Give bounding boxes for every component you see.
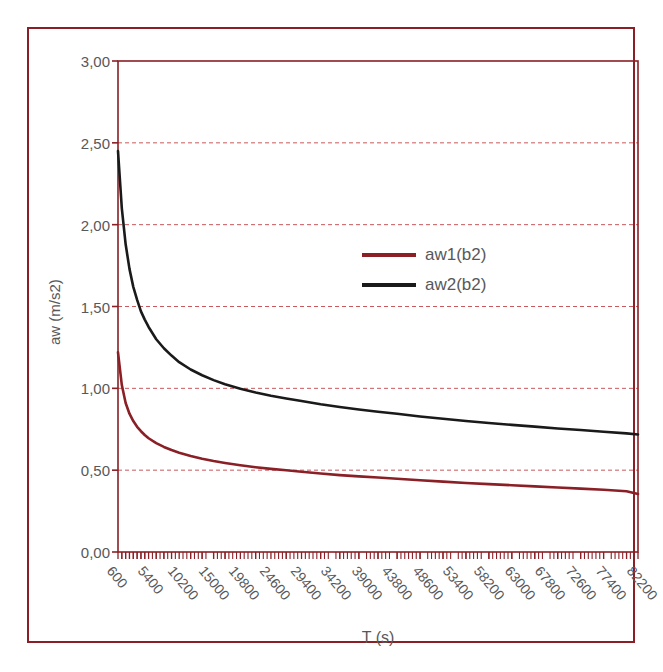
x-axis-title: T (s): [118, 629, 638, 647]
legend-label-aw2: aw2(b2): [425, 275, 486, 295]
legend-label-aw1: aw1(b2): [425, 245, 486, 265]
y-tick-label: 1,50: [62, 298, 110, 315]
x-tick-marks: [118, 552, 638, 559]
y-tick-label: 3,00: [62, 53, 110, 70]
legend-item: aw2(b2): [362, 270, 486, 300]
chart-legend: aw1(b2) aw2(b2): [362, 240, 486, 300]
gridlines-group: [118, 143, 638, 470]
y-tick-label: 0,00: [62, 544, 110, 561]
legend-swatch-aw2: [362, 283, 416, 287]
y-tick-marks: [112, 61, 118, 552]
y-tick-label: 1,00: [62, 380, 110, 397]
legend-swatch-aw1: [362, 253, 416, 257]
y-axis-title: aw (m/s2): [46, 279, 63, 345]
legend-item: aw1(b2): [362, 240, 486, 270]
y-tick-label: 0,50: [62, 462, 110, 479]
data-series-group: [118, 151, 638, 494]
y-tick-label: 2,00: [62, 216, 110, 233]
y-tick-label: 2,50: [62, 134, 110, 151]
